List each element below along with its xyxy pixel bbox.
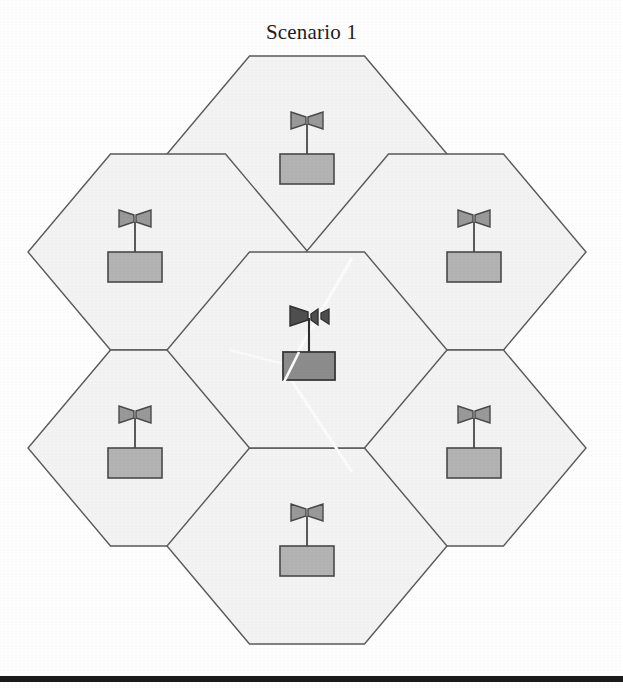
- figure-root: Scenario 1: [0, 0, 623, 688]
- base-station-box-icon[interactable]: [108, 252, 162, 282]
- bottom-rule: [0, 676, 623, 682]
- hexagon-cell-diagram: [0, 0, 623, 688]
- base-station-box-icon[interactable]: [108, 448, 162, 478]
- base-station-box-icon[interactable]: [447, 448, 501, 478]
- base-station-box-icon[interactable]: [280, 154, 334, 184]
- base-station-box-icon[interactable]: [447, 252, 501, 282]
- base-station-box-icon[interactable]: [280, 546, 334, 576]
